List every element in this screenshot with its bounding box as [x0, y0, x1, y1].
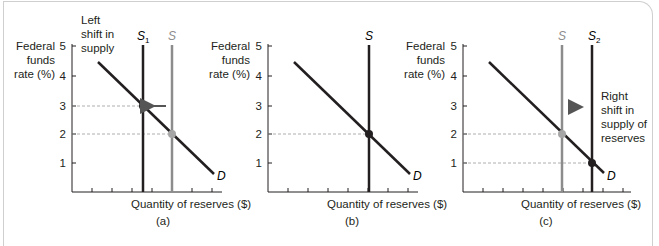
panel-label: (c) [539, 215, 553, 227]
demand-curve [294, 62, 410, 174]
panel-label: (a) [156, 215, 170, 227]
y-tick: 1 [451, 157, 457, 169]
annotation: supply of [601, 118, 648, 130]
curve-label-d: D [607, 169, 616, 183]
y-axis-label: funds [222, 54, 250, 66]
x-axis-label: Quantity of reserves ($) [327, 198, 447, 210]
y-tick: 1 [60, 157, 66, 169]
y-axis-label: funds [417, 54, 445, 66]
annotation: Right [601, 90, 629, 102]
x-axis-label: Quantity of reserves ($) [521, 198, 641, 210]
y-axis-label: rate (%) [404, 68, 445, 80]
y-axis-label: funds [27, 54, 55, 66]
equilibrium-point [588, 159, 596, 167]
equilibrium-point [139, 102, 147, 110]
y-tick: 3 [256, 100, 262, 112]
curve-label-d: D [217, 169, 226, 183]
y-tick: 1 [256, 157, 262, 169]
y-tick: 2 [256, 128, 262, 140]
y-tick: 4 [451, 70, 458, 82]
y-tick: 4 [256, 70, 263, 82]
y-tick: 3 [451, 100, 457, 112]
y-axis-label: rate (%) [14, 68, 55, 80]
equilibrium-point [558, 130, 566, 138]
curve-label-d: D [413, 169, 422, 183]
y-axis-label: rate (%) [209, 68, 250, 80]
y-axis-label: Federal [211, 40, 250, 52]
y-axis-label: Federal [16, 40, 55, 52]
curve-label-s: S [365, 29, 373, 43]
demand-curve [98, 62, 214, 174]
annotation: reserves [601, 132, 645, 144]
curve-label-s1: S1 [137, 29, 150, 45]
x-axis-label: Quantity of reserves ($) [131, 198, 251, 210]
y-axis-label: Federal [406, 40, 445, 52]
y-tick: 5 [451, 40, 457, 52]
curve-label-s: S [558, 29, 566, 43]
panel-label: (b) [345, 215, 359, 227]
demand-curve [489, 62, 604, 173]
curve-label-s2: S2 [588, 29, 601, 45]
y-tick: 5 [256, 40, 262, 52]
equilibrium-point [168, 130, 176, 138]
annotation: shift in [601, 104, 634, 116]
y-tick: 2 [60, 128, 66, 140]
y-tick: 2 [451, 128, 457, 140]
y-tick: 4 [60, 70, 67, 82]
annotation: shift in [81, 28, 114, 40]
annotation: supply [81, 42, 114, 54]
curve-label-s: S [168, 29, 176, 43]
equilibrium-point [365, 130, 373, 138]
y-tick: 5 [60, 40, 66, 52]
annotation: Left [81, 14, 101, 26]
y-tick: 3 [60, 100, 66, 112]
